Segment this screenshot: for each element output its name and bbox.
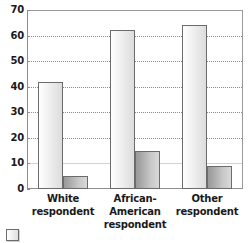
y-tick-label-wrap-20: 20 [0, 133, 24, 143]
bar [63, 176, 88, 189]
y-tick-mark-0 [27, 189, 30, 190]
bar-group [182, 10, 232, 189]
x-axis-category-labels: WhiterespondentAfrican-Americanresponden… [27, 192, 243, 226]
y-tick-label-70: 70 [2, 5, 24, 15]
x-axis-label-line: Other [164, 192, 250, 205]
bar [182, 25, 207, 189]
y-tick-label-50: 50 [2, 56, 24, 66]
bar [38, 82, 63, 189]
x-axis-label-line: respondent [164, 205, 250, 218]
y-tick-label-40: 40 [2, 82, 24, 92]
y-tick-label-wrap-70: 70 [0, 5, 24, 15]
bar-chart: 010203040506070 WhiterespondentAfrican-A… [0, 0, 251, 243]
x-axis-label-line: respondent [92, 218, 178, 231]
legend-swatch-series-a [6, 229, 19, 241]
x-axis-label: Otherrespondent [164, 192, 250, 218]
bar-group [38, 10, 88, 189]
y-tick-label-wrap-10: 10 [0, 158, 24, 168]
y-tick-label-wrap-40: 40 [0, 82, 24, 92]
y-tick-label-30: 30 [2, 107, 24, 117]
y-tick-label-wrap-50: 50 [0, 56, 24, 66]
legend [6, 229, 24, 241]
bars-layer [27, 10, 243, 189]
bar [135, 151, 160, 189]
y-tick-label-20: 20 [2, 133, 24, 143]
y-tick-label-10: 10 [2, 158, 24, 168]
y-tick-label-wrap-60: 60 [0, 31, 24, 41]
y-tick-label-60: 60 [2, 31, 24, 41]
y-tick-label-wrap-30: 30 [0, 107, 24, 117]
bar [207, 166, 232, 189]
bar [110, 30, 135, 189]
bar-group [110, 10, 160, 189]
